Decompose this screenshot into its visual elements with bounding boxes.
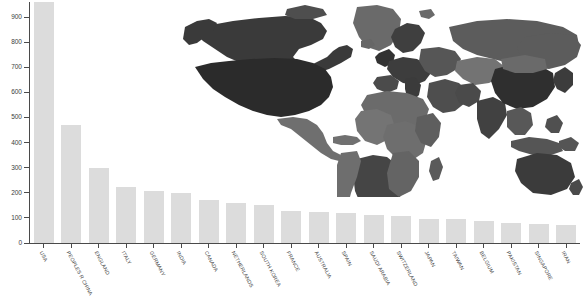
y-tick-mark — [24, 192, 29, 193]
bar — [144, 191, 164, 243]
x-tick-mark — [208, 244, 209, 248]
x-tick-label: SWITZERLAND — [396, 250, 420, 287]
x-tick-mark — [153, 244, 154, 248]
x-tick-label: AUSTRALIA — [313, 250, 332, 279]
x-tick-mark — [401, 244, 402, 248]
x-tick-mark — [98, 244, 99, 248]
y-tick-label: 100 — [0, 213, 22, 222]
x-tick-label: ENGLAND — [93, 250, 111, 276]
bar — [171, 193, 191, 243]
bar-chart: 0100200300400500600700800900 USAPEOPLES … — [0, 0, 587, 299]
y-tick-label: 0 — [0, 238, 22, 247]
bar — [226, 203, 246, 243]
bar — [391, 216, 411, 243]
x-tick-label: SAUDI ARABIA — [368, 250, 391, 286]
y-tick-label: 900 — [0, 12, 22, 21]
y-tick-label: 200 — [0, 188, 22, 197]
x-tick-label: ITALY — [121, 250, 133, 266]
bar — [474, 221, 494, 243]
y-tick-label: 800 — [0, 37, 22, 46]
x-tick-mark — [43, 244, 44, 248]
bar — [116, 187, 136, 243]
x-tick-label: SINGAPORE — [533, 250, 553, 281]
x-tick-label: NETHERLANDS — [231, 250, 255, 288]
y-tick-mark — [24, 17, 29, 18]
bar — [501, 223, 521, 243]
y-tick-mark — [24, 167, 29, 168]
y-tick-mark — [24, 92, 29, 93]
x-tick-mark — [456, 244, 457, 248]
y-tick-mark — [24, 217, 29, 218]
chart-figure: 0100200300400500600700800900 USAPEOPLES … — [0, 0, 587, 299]
x-tick-mark — [263, 244, 264, 248]
x-tick-mark — [538, 244, 539, 248]
x-tick-label: PAKISTAN — [506, 250, 524, 276]
bar — [336, 213, 356, 243]
y-tick-label: 300 — [0, 163, 22, 172]
bar — [556, 225, 576, 243]
plot-bars — [30, 2, 580, 243]
x-tick-label: FRANCE — [286, 250, 302, 272]
x-tick-mark — [318, 244, 319, 248]
y-tick-label: 600 — [0, 87, 22, 96]
y-tick-mark — [24, 42, 29, 43]
x-tick-mark — [181, 244, 182, 248]
x-tick-mark — [346, 244, 347, 248]
x-tick-label: USA — [38, 250, 49, 263]
y-tick-label: 400 — [0, 138, 22, 147]
x-tick-label: SOUTH KOREA — [258, 250, 282, 288]
bar — [34, 2, 54, 243]
x-tick-label: PEOPLES R CHINA — [66, 250, 94, 296]
x-tick-label: INDIA — [176, 250, 188, 266]
bar — [364, 215, 384, 243]
bar — [199, 200, 219, 243]
x-tick-label: IRAN — [561, 250, 572, 264]
x-tick-mark — [373, 244, 374, 248]
y-tick-mark — [24, 67, 29, 68]
y-tick-label: 700 — [0, 62, 22, 71]
bar — [89, 168, 109, 243]
y-tick-mark — [24, 117, 29, 118]
bar — [446, 219, 466, 243]
x-tick-label: SPAIN — [341, 250, 354, 267]
y-tick-label: 500 — [0, 112, 22, 121]
x-tick-mark — [511, 244, 512, 248]
x-tick-mark — [236, 244, 237, 248]
x-tick-mark — [71, 244, 72, 248]
x-tick-label: CANADA — [203, 250, 219, 273]
bar — [309, 212, 329, 243]
x-tick-label: TAIWAN — [451, 250, 466, 271]
y-tick-mark — [24, 243, 29, 244]
y-tick-mark — [24, 142, 29, 143]
bar — [254, 205, 274, 243]
x-axis-line — [29, 243, 580, 244]
bar — [529, 224, 549, 243]
x-tick-label: JAPAN — [423, 250, 436, 268]
bar — [419, 219, 439, 243]
x-tick-label: BELGIUM — [478, 250, 495, 274]
x-tick-mark — [291, 244, 292, 248]
x-tick-mark — [126, 244, 127, 248]
bar — [61, 125, 81, 243]
x-tick-mark — [566, 244, 567, 248]
x-tick-label: GERMANY — [148, 250, 166, 277]
bar — [281, 211, 301, 243]
x-tick-mark — [428, 244, 429, 248]
x-tick-mark — [483, 244, 484, 248]
